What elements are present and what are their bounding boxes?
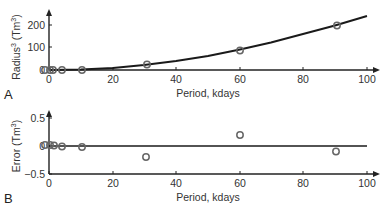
panel-a: 0 100 200 0 20 40 60 80 100 xyxy=(4,9,380,102)
x-tick-label: 40 xyxy=(170,73,182,85)
y-tick-label: −0.5 xyxy=(24,168,45,180)
x-tick-label: 20 xyxy=(107,177,119,189)
svg-text:Error (Tm3): Error (Tm3) xyxy=(10,120,22,172)
y-tick-label: 200 xyxy=(27,19,45,31)
x-axis-label-a: Period, kdays xyxy=(176,87,240,99)
fit-curve xyxy=(49,16,367,70)
x-tick-label: 80 xyxy=(297,177,309,189)
y-tick-label: 100 xyxy=(27,41,45,53)
x-tick-label: 80 xyxy=(297,73,309,85)
data-points-a xyxy=(42,22,340,73)
svg-text:Radius3 (Tm3): Radius3 (Tm3) xyxy=(10,14,22,80)
y-tick-label: 0.5 xyxy=(30,112,45,124)
x-tick-label: 20 xyxy=(107,73,119,85)
figure: 0 100 200 0 20 40 60 80 100 xyxy=(0,0,391,211)
x-tick-label: 40 xyxy=(170,177,182,189)
panel-label-b: B xyxy=(4,191,13,206)
x-tick-label: 100 xyxy=(358,73,376,85)
x-tick-label: 0 xyxy=(46,177,52,189)
panel-b: 0.5 0 −0.5 0 20 40 60 80 100 xyxy=(4,110,380,206)
x-tick-label: 100 xyxy=(358,177,376,189)
x-tick-label: 60 xyxy=(234,177,246,189)
panel-label-a: A xyxy=(4,87,13,102)
x-tick-label: 0 xyxy=(46,73,52,85)
y-axis-arrow-icon xyxy=(46,9,52,16)
x-axis-label-b: Period, kdays xyxy=(176,191,240,203)
y-axis-label-a: Radius3 (Tm3) xyxy=(10,14,22,80)
y-axis-arrow-icon xyxy=(46,110,52,117)
y-axis-label-b: Error (Tm3) xyxy=(10,120,22,172)
x-tick-label: 60 xyxy=(234,73,246,85)
